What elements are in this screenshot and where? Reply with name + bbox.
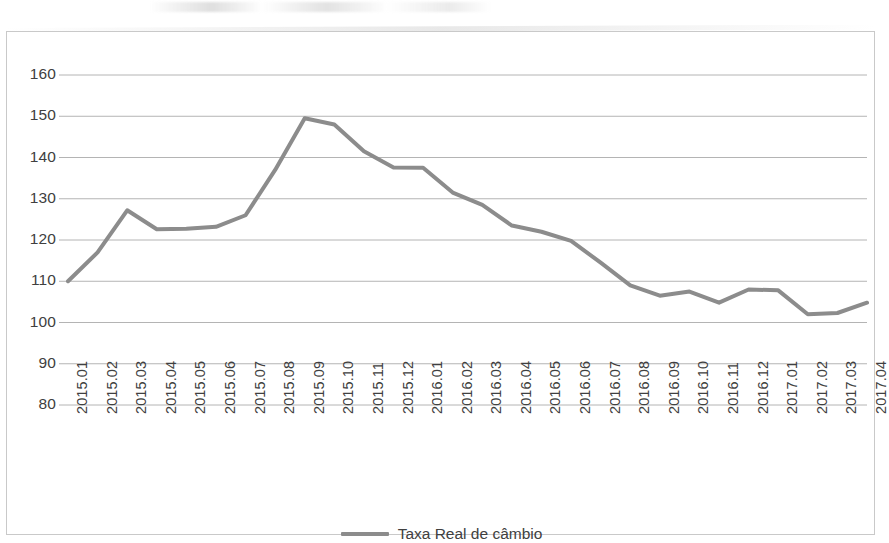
x-axis-tick-label: 2015.07 <box>252 361 268 414</box>
x-axis-tick-label: 2015.08 <box>281 361 297 414</box>
line-chart-plot <box>7 32 876 536</box>
x-axis-tick-label: 2015.04 <box>163 361 179 414</box>
x-axis-tick-label: 2016.06 <box>577 361 593 414</box>
x-axis-tick-label: 2015.10 <box>340 361 356 414</box>
x-axis-tick-label: 2015.09 <box>311 361 327 414</box>
y-axis-tick-label: 130 <box>10 189 56 207</box>
x-axis-tick-label: 2015.05 <box>192 361 208 414</box>
x-axis-tick-label: 2015.01 <box>74 361 90 414</box>
x-axis-tick-label: 2016.12 <box>755 361 771 414</box>
y-axis-tick-label: 140 <box>10 148 56 166</box>
x-axis-tick-label: 2017.02 <box>814 361 830 414</box>
y-axis-tick-label: 80 <box>10 395 56 413</box>
x-axis-tick-label: 2015.03 <box>133 361 149 414</box>
x-axis-tick-label: 2017.04 <box>873 361 889 414</box>
scan-artifact <box>150 2 490 12</box>
x-axis-tick-label: 2016.02 <box>459 361 475 414</box>
chart-container: 8090100110120130140150160 2015.012015.02… <box>6 31 875 535</box>
x-axis-tick-label: 2016.03 <box>488 361 504 414</box>
legend-line-swatch <box>341 532 389 536</box>
x-axis-tick-label: 2016.01 <box>429 361 445 414</box>
x-axis-tick-label: 2016.05 <box>547 361 563 414</box>
x-axis-tick-label: 2016.10 <box>695 361 711 414</box>
x-axis-tick-label: 2016.11 <box>725 362 741 414</box>
x-axis-tick-label: 2016.07 <box>607 361 623 414</box>
x-axis-tick-label: 2015.12 <box>400 361 416 414</box>
y-axis-tick-label: 160 <box>10 65 56 83</box>
y-axis-tick-label: 100 <box>10 313 56 331</box>
y-axis-tick-label: 90 <box>10 354 56 372</box>
x-axis-tick-label: 2015.02 <box>104 361 120 414</box>
y-axis-tick-label: 110 <box>10 271 56 289</box>
x-axis-tick-label: 2017.03 <box>843 361 859 414</box>
x-axis-tick-label: 2015.06 <box>222 361 238 414</box>
x-axis-tick-label: 2016.04 <box>518 361 534 414</box>
x-axis-tick-label: 2016.09 <box>666 361 682 414</box>
x-axis-tick-label: 2015.11 <box>370 362 386 414</box>
y-axis-tick-label: 120 <box>10 230 56 248</box>
chart-legend: Taxa Real de câmbio <box>7 525 876 543</box>
data-line-taxa-real-de-cambio <box>68 118 867 314</box>
x-axis-tick-label: 2017.01 <box>784 361 800 414</box>
legend-label-taxa-real-de-cambio: Taxa Real de câmbio <box>398 525 543 543</box>
x-axis-tick-label: 2016.08 <box>636 361 652 414</box>
y-axis-tick-label: 150 <box>10 106 56 124</box>
